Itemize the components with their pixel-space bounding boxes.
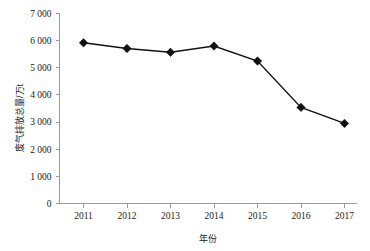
y-tick-label: 2 000 [30, 145, 52, 155]
x-tick-label: 2016 [292, 211, 311, 221]
y-tick-label: 4 000 [30, 90, 52, 100]
x-tick-label: 2012 [118, 211, 137, 221]
chart-container: 01 0002 0003 0004 0005 0006 0007 000 201… [0, 0, 370, 251]
y-tick-label: 1 000 [30, 172, 52, 182]
x-tick-label: 2017 [335, 211, 354, 221]
y-tick-label: 7 000 [30, 9, 52, 19]
y-tick-label: 3 000 [30, 117, 52, 127]
x-tick-label: 2014 [205, 211, 224, 221]
line-chart: 01 0002 0003 0004 0005 0006 0007 000 201… [0, 0, 370, 251]
x-axis-title: 年份 [199, 233, 217, 244]
y-tick-label: 0 [47, 199, 52, 209]
x-tick-label: 2011 [74, 211, 93, 221]
y-tick-label: 6 000 [30, 36, 52, 46]
y-tick-label: 5 000 [30, 63, 52, 73]
x-tick-label: 2015 [248, 211, 267, 221]
x-tick-label: 2013 [161, 211, 180, 221]
y-axis-title: 废气排放总量/万t [14, 84, 25, 153]
chart-background [0, 0, 370, 251]
